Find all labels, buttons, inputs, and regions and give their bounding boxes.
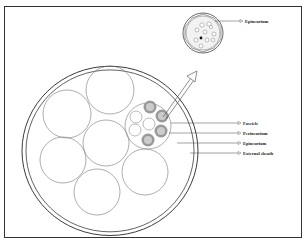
- nerve-diagram: [0, 0, 307, 242]
- label-fascicle: Fascicle: [243, 121, 258, 126]
- label-perineurium: Perineurium: [243, 131, 268, 136]
- fascicle-group: [125, 101, 171, 150]
- label-inset-epineurium: Epineurium: [245, 19, 268, 24]
- label-epineurium: Epineurium: [243, 141, 266, 146]
- label-external-sheath: External sheath: [243, 151, 273, 156]
- zoom-arrow: [163, 71, 197, 119]
- inset-fascicle: [183, 13, 223, 53]
- external-sheath: [22, 66, 198, 235]
